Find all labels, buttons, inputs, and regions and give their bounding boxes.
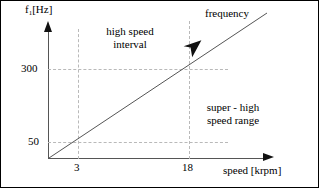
gridline-x-18 xyxy=(189,21,190,159)
x-axis-arrow-icon xyxy=(263,153,274,161)
y-axis-title: f1[Hz] xyxy=(25,3,52,18)
gridline-x-3 xyxy=(78,29,79,159)
series-label-frequency: frequency xyxy=(205,7,249,20)
x-tick-label-18: 18 xyxy=(182,161,193,173)
annotation-high-speed-interval-line-1: high speed xyxy=(87,25,173,38)
y-tick-label-50: 50 xyxy=(28,135,39,147)
gridline-y-50 xyxy=(48,142,228,143)
gridline-y-300 xyxy=(48,69,228,70)
annotation-high-speed-interval-line-2: interval xyxy=(87,38,173,51)
annotation-super-high-speed-range-line-1: super - high xyxy=(187,101,279,114)
y-axis-arrow-icon xyxy=(44,21,52,32)
x-tick-label-3: 3 xyxy=(74,161,80,173)
frequency-vs-speed-chart: f1[Hz] speed [krpm] 300 50 3 18 frequenc… xyxy=(0,0,319,188)
annotation-high-speed-interval: high speed interval xyxy=(87,25,173,51)
y-axis-line xyxy=(48,30,49,159)
y-tick-label-300: 300 xyxy=(21,62,38,74)
y-axis-title-subscript: 1 xyxy=(29,9,33,17)
frequency-direction-arrow-icon xyxy=(184,36,207,58)
annotation-super-high-speed-range-line-2: speed range xyxy=(187,114,279,127)
x-axis-line xyxy=(48,158,264,159)
annotation-super-high-speed-range: super - high speed range xyxy=(187,101,279,127)
x-axis-title: speed [krpm] xyxy=(223,164,281,177)
y-axis-title-unit: [Hz] xyxy=(32,3,52,15)
